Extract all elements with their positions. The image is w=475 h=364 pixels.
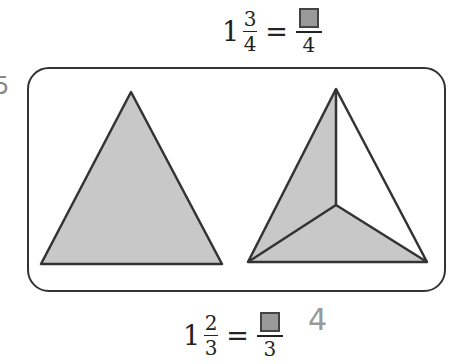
handwritten-answer: 4: [308, 302, 327, 337]
answer-fraction: 3: [257, 312, 283, 359]
answer-box[interactable]: [260, 312, 280, 332]
answer-denominator: 3: [263, 339, 276, 359]
numerator: 2: [205, 313, 218, 333]
denominator: 3: [205, 338, 218, 358]
equals-sign: =: [226, 320, 249, 351]
mixed-fraction: 2 3: [204, 313, 218, 359]
shapes-drawing: [0, 0, 475, 364]
whole-triangle: [41, 92, 222, 264]
whole-number: 1: [183, 320, 200, 351]
bottom-equation: 1 2 3 = 3: [183, 312, 283, 359]
